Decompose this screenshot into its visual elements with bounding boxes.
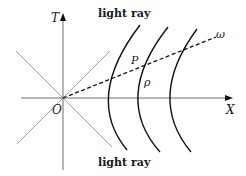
hyperbola-1 xyxy=(108,25,140,150)
omega-label: ω xyxy=(216,29,225,40)
hyperbola-3 xyxy=(170,29,197,152)
rho-label: ρ xyxy=(144,77,150,88)
x-axis-label: X xyxy=(226,104,235,116)
spacetime-diagram xyxy=(0,0,246,176)
t-axis-label: T xyxy=(51,12,59,24)
light-ray-up-left xyxy=(16,51,112,147)
hyperbola-2 xyxy=(138,27,168,152)
light-ray-label-top: light ray xyxy=(98,8,150,19)
origin-label: O xyxy=(52,104,62,116)
light-ray-label-bottom: light ray xyxy=(98,157,150,168)
dashed-ray-omega xyxy=(63,37,216,98)
x-axis-arrow-icon xyxy=(225,95,233,101)
t-axis-arrow-icon xyxy=(60,13,66,21)
point-p-label: P xyxy=(131,55,138,66)
